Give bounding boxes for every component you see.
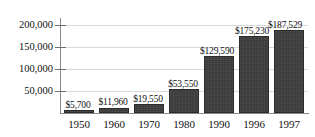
x-axis-label-1960: 1960 [94,118,134,130]
x-axis-line [60,113,309,114]
x-axis-label-1996: 1996 [234,118,274,130]
y-axis-label-50000: 50,000 [0,85,53,96]
y-axis-label-100000: 100,000 [0,63,53,74]
bar-value-1980: $53,550 [153,79,213,89]
x-axis-label-1980: 1980 [164,118,204,130]
y-axis-label-200000: 200,000 [0,19,53,30]
x-axis-label-1970: 1970 [129,118,169,130]
bar-value-1990: $129,590 [186,46,248,56]
x-axis-label-1997: 1997 [269,118,309,130]
y-axis-label-150000: 150,000 [0,41,53,52]
x-axis-label-1950: 1950 [59,118,99,130]
bar-chart: 200,000 150,000 100,000 50,000 $5,700 $1… [0,0,315,137]
bar-1950 [64,110,94,113]
bar-value-1997: $187,529 [254,20,315,30]
x-axis-label-1990: 1990 [199,118,239,130]
bar-value-1970: $19,550 [118,94,178,104]
bar-1997 [274,30,304,113]
